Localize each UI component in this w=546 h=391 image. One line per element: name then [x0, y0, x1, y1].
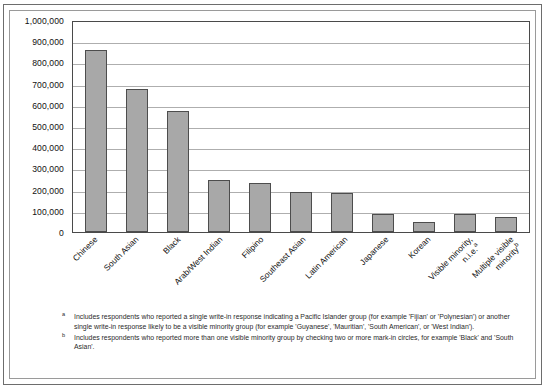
bar[interactable]: [126, 89, 148, 232]
x-tick-label-line1: South Asian: [102, 234, 141, 273]
bar-slot: [198, 22, 239, 232]
footnote: aIncludes respondents who reported a sin…: [62, 312, 524, 332]
x-tick-label-line1: Filipino: [240, 234, 266, 260]
bar[interactable]: [372, 214, 394, 232]
x-tick-label-line1: Latin American: [303, 234, 349, 280]
footnote-text: Includes respondents who reported a sing…: [74, 313, 510, 330]
y-tick-label: 400,000: [32, 143, 64, 153]
bar[interactable]: [167, 111, 189, 232]
x-tick-label: Korean: [407, 235, 433, 261]
bar-slot: [322, 22, 363, 232]
footnote-marker: b: [62, 332, 65, 340]
bar[interactable]: [413, 222, 435, 232]
footnote: bIncludes respondents who reported more …: [62, 333, 524, 353]
x-tick-label-line1: Chinese: [70, 234, 99, 263]
bar[interactable]: [208, 180, 230, 232]
x-tick-label-line1: Japanese: [358, 234, 391, 267]
bar-slot: [486, 22, 527, 232]
bar-slot: [239, 22, 280, 232]
bar[interactable]: [290, 192, 312, 232]
y-tick-label: 300,000: [32, 164, 64, 174]
bar[interactable]: [249, 183, 271, 232]
x-tick-label: Multiple visibleminorityb: [471, 235, 524, 288]
bar-slot: [445, 22, 486, 232]
bar[interactable]: [454, 214, 476, 232]
x-tick-label: Latin American: [303, 235, 349, 281]
footnote-marker: a: [62, 311, 65, 319]
y-tick-label: 500,000: [32, 122, 64, 132]
bar-slot: [75, 22, 116, 232]
x-tick-label: Southeast Asian: [258, 235, 307, 284]
bar-slot: [280, 22, 321, 232]
y-tick-label: 700,000: [32, 80, 64, 90]
chart-plot-area: [72, 21, 530, 233]
x-tick-label: Chinese: [71, 235, 99, 263]
y-tick-label: 1,000,000: [25, 16, 64, 26]
y-tick-label: 0: [59, 228, 64, 238]
x-tick-label: Black: [162, 235, 183, 256]
y-tick-label: 800,000: [32, 58, 64, 68]
x-tick-label: Japanese: [359, 235, 391, 267]
bar-slot: [157, 22, 198, 232]
y-tick-label: 600,000: [32, 101, 64, 111]
footnote-text: Includes respondents who reported more t…: [74, 334, 513, 351]
x-tick-label: Filipino: [241, 235, 266, 260]
figure-root: 1,000,000900,000800,000700,000600,000500…: [0, 0, 546, 391]
y-tick-label: 900,000: [32, 37, 64, 47]
x-tick-label: South Asian: [103, 235, 141, 273]
bar[interactable]: [85, 50, 107, 232]
y-tick-label: 100,000: [32, 207, 64, 217]
bar-series: [73, 22, 529, 232]
footnote-marker-icon: b: [513, 241, 520, 248]
footnote-list: aIncludes respondents who reported a sin…: [62, 312, 524, 353]
bar-slot: [363, 22, 404, 232]
bar[interactable]: [331, 193, 353, 232]
x-tick-label: Visible minority,n.i.e.a: [427, 235, 482, 290]
bar-slot: [116, 22, 157, 232]
y-axis-tick-labels: 1,000,000900,000800,000700,000600,000500…: [0, 21, 68, 233]
bar-slot: [404, 22, 445, 232]
x-tick-label-line1: Black: [161, 234, 183, 256]
x-axis-tick-labels: ChineseSouth AsianBlackArab/West IndianF…: [72, 233, 530, 315]
x-tick-label-line1: Korean: [406, 234, 432, 260]
bar[interactable]: [495, 217, 517, 232]
y-tick-label: 200,000: [32, 186, 64, 196]
footnote-marker-icon: a: [471, 241, 478, 248]
